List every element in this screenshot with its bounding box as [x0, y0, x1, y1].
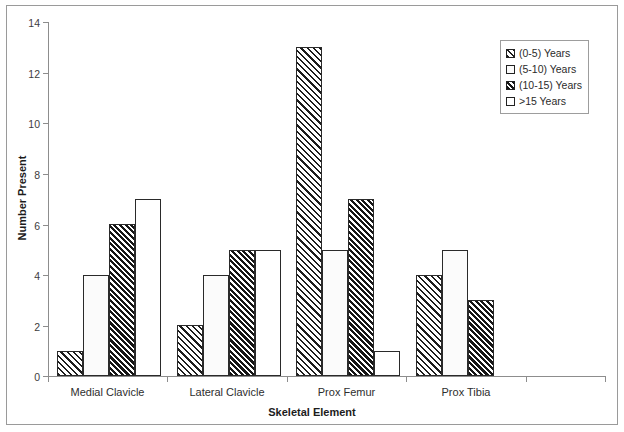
legend-item-5-10-years: (5-10) Years — [506, 61, 582, 77]
bar-prox-femur-0-5-years — [296, 47, 322, 376]
y-tick-label-2: 2 — [0, 321, 40, 333]
x-tick-1 — [167, 377, 168, 382]
x-tick-4 — [526, 377, 527, 382]
y-tick-label-12: 12 — [0, 68, 40, 80]
bar-medial-clavicle-10-15-years — [109, 224, 135, 376]
legend-swatch-icon-over-15-years — [506, 97, 515, 106]
legend-swatch-icon-0-5-years — [506, 49, 515, 58]
y-tick-label-10: 10 — [0, 118, 40, 130]
bar-prox-tibia-10-15-years — [468, 300, 494, 376]
bar-prox-femur-5-10-years — [322, 250, 348, 376]
bar-lateral-clavicle-5-10-years — [203, 275, 229, 376]
legend-item-10-15-years: (10-15) Years — [506, 77, 582, 93]
bar-prox-femur-15-years — [374, 351, 400, 376]
legend-label-10-15-years: (10-15) Years — [519, 79, 582, 91]
legend-label-over-15-years: >15 Years — [519, 95, 566, 107]
x-tick-label-prox-femur: Prox Femur — [287, 386, 406, 398]
bar-chart-figure: Number Present 14 12 10 8 6 4 2 0 Medial… — [0, 0, 624, 432]
x-axis-line — [48, 376, 606, 377]
legend-swatch-icon-10-15-years — [506, 81, 515, 90]
y-tick-label-6: 6 — [0, 220, 40, 232]
y-tick-label-4: 4 — [0, 270, 40, 282]
x-tick-label-lateral-clavicle: Lateral Clavicle — [167, 386, 287, 398]
legend-item-0-5-years: (0-5) Years — [506, 45, 582, 61]
x-tick-5 — [605, 377, 606, 382]
x-tick-label-medial-clavicle: Medial Clavicle — [48, 386, 167, 398]
x-tick-3 — [406, 377, 407, 382]
bar-prox-tibia-0-5-years — [416, 275, 442, 376]
y-tick-label-0: 0 — [0, 371, 40, 383]
legend-label-0-5-years: (0-5) Years — [519, 47, 570, 59]
y-tick-label-14: 14 — [0, 17, 40, 29]
bar-lateral-clavicle-10-15-years — [229, 250, 255, 376]
bar-prox-femur-10-15-years — [348, 199, 374, 376]
bar-medial-clavicle-0-5-years — [57, 351, 83, 376]
legend-swatch-icon-5-10-years — [506, 65, 515, 74]
y-axis-tick-labels: 14 12 10 8 6 4 2 0 — [0, 0, 40, 432]
bar-medial-clavicle-5-10-years — [83, 275, 109, 376]
bar-lateral-clavicle-0-5-years — [177, 325, 203, 376]
legend-label-5-10-years: (5-10) Years — [519, 63, 576, 75]
bar-prox-tibia-5-10-years — [442, 250, 468, 376]
x-tick-label-prox-tibia: Prox Tibia — [406, 386, 526, 398]
x-axis-title: Skeletal Element — [0, 406, 624, 418]
bar-medial-clavicle-15-years — [135, 199, 161, 376]
chart-legend: (0-5) Years (5-10) Years (10-15) Years >… — [500, 40, 589, 114]
legend-item-over-15-years: >15 Years — [506, 93, 582, 109]
x-tick-2 — [287, 377, 288, 382]
x-tick-0 — [48, 377, 49, 382]
bar-lateral-clavicle-15-years — [255, 250, 281, 376]
y-tick-label-8: 8 — [0, 169, 40, 181]
